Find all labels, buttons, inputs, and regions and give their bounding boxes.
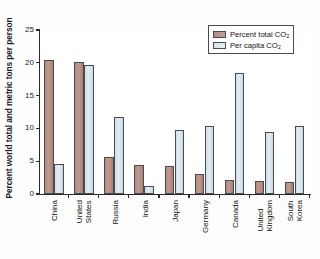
x-axis-label: SouthKorea xyxy=(289,200,302,256)
x-axis-tick-mark xyxy=(279,194,280,198)
legend-item-per-capita: Per capita CO2 xyxy=(213,40,289,50)
y-axis-tick-label: 25 xyxy=(25,26,36,34)
bar-percent-total xyxy=(195,174,205,194)
legend-label-per-capita: Per capita CO2 xyxy=(230,41,281,50)
bar-percent-total xyxy=(44,60,54,194)
bar-percent-total xyxy=(104,157,114,194)
y-axis-tick-label: 10 xyxy=(25,124,36,132)
bar-group xyxy=(225,30,245,194)
x-axis-tick-mark xyxy=(219,194,220,198)
bar-group xyxy=(74,30,94,194)
x-axis-label: Russia xyxy=(108,200,121,256)
x-axis-line xyxy=(39,194,311,195)
y-axis-tick-label: 20 xyxy=(25,59,36,67)
x-axis-tick-mark xyxy=(128,194,129,198)
x-axis-label: China xyxy=(48,200,61,256)
bar-group xyxy=(255,30,275,194)
x-axis-label: Japan xyxy=(168,200,181,256)
x-axis-tick-mark xyxy=(309,194,310,198)
bar-per-capita xyxy=(295,126,305,194)
bar-percent-total xyxy=(165,166,175,194)
x-axis-label-text: UnitedKingdom xyxy=(256,200,274,232)
bar-percent-total xyxy=(74,62,84,195)
legend-label-percent-total: Percent total CO2 xyxy=(230,30,289,39)
bar-group xyxy=(195,30,215,194)
x-axis-tick-mark xyxy=(188,194,189,198)
bar-group xyxy=(104,30,124,194)
legend-swatch-percent-total xyxy=(213,31,226,38)
y-axis-title-text: Percent world total and metric tons per … xyxy=(4,17,14,198)
x-axis-label: UnitedKingdom xyxy=(259,200,272,256)
y-axis-title: Percent world total and metric tons per … xyxy=(0,0,18,215)
x-axis-label-text: India xyxy=(140,200,149,217)
x-axis-label-text: UnitedStates xyxy=(75,200,93,223)
bar-per-capita xyxy=(205,126,215,194)
bar-per-capita xyxy=(84,65,94,194)
x-axis-label: UnitedStates xyxy=(78,200,91,256)
legend-swatch-per-capita xyxy=(213,42,226,49)
x-axis-label-text: Japan xyxy=(170,200,179,222)
bar-per-capita xyxy=(175,130,185,194)
bar-per-capita xyxy=(265,132,275,194)
bar-group xyxy=(134,30,154,194)
x-axis-label-text: Canada xyxy=(231,200,240,228)
x-axis-label-text: SouthKorea xyxy=(286,200,304,221)
legend-item-percent-total: Percent total CO2 xyxy=(213,29,289,39)
x-axis-tick-mark xyxy=(68,194,69,198)
x-axis-label-text: China xyxy=(50,200,59,221)
bar-group xyxy=(44,30,64,194)
bar-percent-total xyxy=(285,182,295,194)
x-axis-label-text: Russia xyxy=(110,200,119,224)
bar-percent-total xyxy=(255,181,265,194)
x-axis-tick-mark xyxy=(98,194,99,198)
x-axis-label: Germany xyxy=(198,200,211,256)
bar-percent-total xyxy=(134,165,144,194)
bar-per-capita xyxy=(54,164,64,194)
x-axis-label: Canada xyxy=(229,200,242,256)
bar-group xyxy=(165,30,185,194)
plot-area xyxy=(40,30,311,194)
x-axis-tick-mark xyxy=(158,194,159,198)
bar-per-capita xyxy=(144,186,154,194)
co2-bar-chart: Percent world total and metric tons per … xyxy=(0,0,320,259)
chart-legend: Percent total CO2 Per capita CO2 xyxy=(208,25,294,54)
y-axis-tick-label: 15 xyxy=(25,92,36,100)
bar-per-capita xyxy=(114,117,124,194)
bar-percent-total xyxy=(225,180,235,194)
x-axis-label-text: Germany xyxy=(200,200,209,233)
bar-per-capita xyxy=(235,73,245,194)
x-axis-label: India xyxy=(138,200,151,256)
bar-group xyxy=(285,30,305,194)
x-axis-tick-mark xyxy=(249,194,250,198)
